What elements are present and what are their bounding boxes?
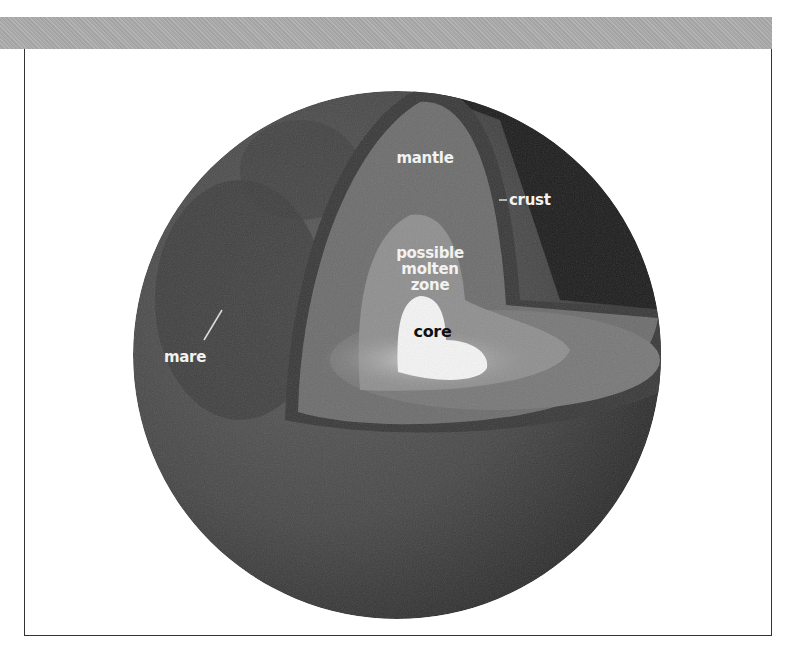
label-core: core <box>405 324 460 340</box>
label-possible-molten-zone: possible molten zone <box>380 245 480 293</box>
planet-cutaway-illustration <box>0 0 797 664</box>
label-mare: mare <box>160 349 210 365</box>
label-mantle: mantle <box>390 150 460 166</box>
label-molten-line-2: molten <box>380 261 480 277</box>
label-crust: crust <box>509 192 559 208</box>
label-molten-line-1: possible <box>380 245 480 261</box>
label-molten-line-3: zone <box>380 277 480 293</box>
